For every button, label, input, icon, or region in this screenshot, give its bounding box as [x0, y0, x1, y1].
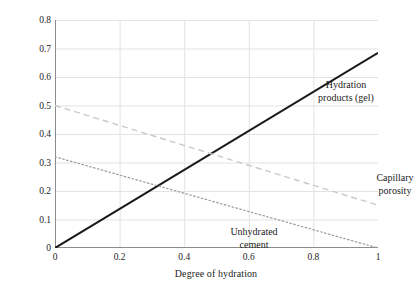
y-tick-label: 0.8	[39, 15, 51, 25]
x-tick-label: 0.2	[114, 252, 126, 262]
y-tick-label: 0.2	[39, 186, 51, 196]
y-tick-label: 0.5	[39, 101, 51, 111]
x-tick-label: 0	[53, 252, 58, 262]
x-tick-label: 0.8	[307, 252, 319, 262]
y-tick-label: 0.1	[39, 215, 51, 225]
y-tick-label: 0.6	[39, 72, 51, 82]
series-line-capillary-porosity	[55, 106, 378, 206]
grid-lines	[55, 20, 378, 248]
y-axis-tick-labels: 00.10.20.30.40.50.60.70.8	[0, 0, 51, 295]
y-tick-label: 0.3	[39, 158, 51, 168]
x-tick-label: 1	[376, 252, 381, 262]
y-axis-title: Volume/g of cement	[6, 0, 22, 16]
annotation-unhydrated-cement: Unhydrated cement	[206, 226, 302, 251]
x-axis-title-text: Degree of hydration	[175, 268, 257, 279]
x-tick-label: 0.6	[243, 252, 255, 262]
x-axis-title: Degree of hydration	[0, 268, 396, 279]
y-tick-label: 0.7	[39, 44, 51, 54]
x-tick-label: 0.4	[178, 252, 190, 262]
x-axis-tick-labels: 00.20.40.60.81	[0, 252, 396, 266]
y-tick-label: 0.4	[39, 129, 51, 139]
y-axis-title-text: Volume/g of cement	[6, 0, 22, 30]
plot-area: Hydration products (gel) Capillary poros…	[55, 20, 378, 248]
plot-svg	[55, 20, 378, 248]
annotation-capillary-porosity: Capillary porosity	[355, 172, 418, 197]
annotation-hydration-products: Hydration products (gel)	[294, 79, 398, 104]
